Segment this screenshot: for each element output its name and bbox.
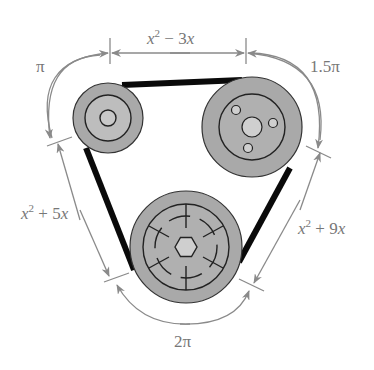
pulley-bottom: [130, 191, 242, 303]
belt-pulley-diagram: x2 − 3x π 1.5π x2 + 5x x2 + 9x 2π: [0, 0, 374, 370]
label-left-segment: x2 + 5x: [21, 205, 68, 222]
label-arc-bottom: 2π: [174, 333, 191, 350]
label-arc-top-left: π: [36, 58, 45, 75]
pulley-top-right: [202, 77, 302, 177]
label-right-segment: x2 + 9x: [298, 220, 345, 237]
label-arc-top-right: 1.5π: [310, 58, 340, 75]
pulley-top-left: [73, 83, 143, 153]
diagram-canvas: [0, 0, 374, 370]
label-top-segment: x2 − 3x: [147, 30, 194, 47]
